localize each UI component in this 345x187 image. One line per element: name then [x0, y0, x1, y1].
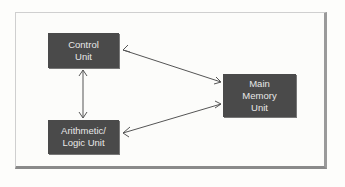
- main-memory-box: Main Memory Unit: [223, 74, 296, 117]
- control-unit-box: Control Unit: [48, 33, 119, 68]
- alu-box: Arithmetic/ Logic Unit: [48, 120, 119, 154]
